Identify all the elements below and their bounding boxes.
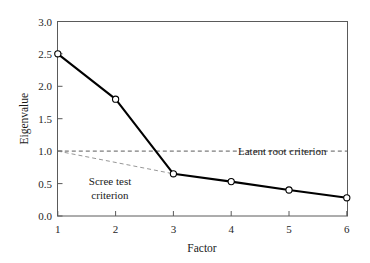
y-tick-label-3: 1.5 [38,113,52,125]
scree-test-criterion-label-line1: Scree test [89,175,131,187]
x-tick-label-1: 1 [55,223,61,235]
y-tick-label-0: 0.0 [38,210,52,222]
y-tick-label-6: 3.0 [38,16,52,28]
scree-plot-figure: 0.0 0.5 1.0 1.5 2.0 2.5 3.0 1 2 3 4 5 6 … [0,0,370,263]
data-point-3 [170,171,176,177]
scree-plot-svg: 0.0 0.5 1.0 1.5 2.0 2.5 3.0 1 2 3 4 5 6 … [0,0,370,263]
data-point-1 [55,51,61,57]
x-tick-label-3: 3 [171,223,177,235]
scree-test-criterion-label-line2: criterion [91,189,129,201]
y-tick-label-5: 2.5 [38,48,52,60]
data-point-5 [286,187,292,193]
scree-test-criterion-line [58,151,174,174]
x-tick-label-2: 2 [113,223,119,235]
data-point-2 [113,96,119,102]
x-axis-title: Factor [187,242,217,254]
x-axis-ticks [58,211,347,216]
x-tick-label-5: 5 [286,223,292,235]
x-tick-label-6: 6 [344,223,350,235]
latent-root-criterion-label: Latent root criterion [238,145,327,157]
y-tick-label-1: 0.5 [38,178,52,190]
data-point-6 [344,195,350,201]
y-tick-label-4: 2.0 [38,80,52,92]
x-tick-label-4: 4 [228,223,234,235]
data-point-4 [228,179,234,185]
y-tick-label-2: 1.0 [38,145,52,157]
y-axis-title: Eigenvalue [18,93,31,145]
